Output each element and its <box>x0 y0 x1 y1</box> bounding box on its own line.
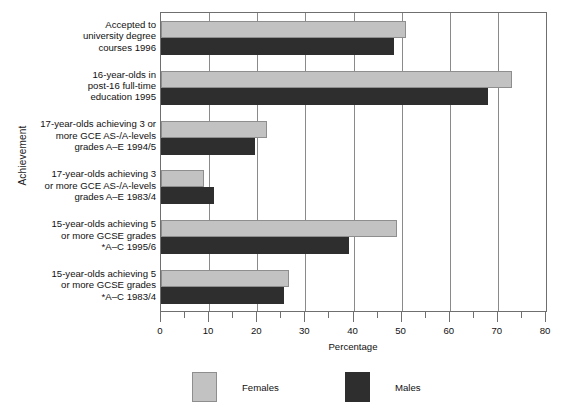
category-label-line: grades A–E 1983/4 <box>14 191 156 202</box>
gridline <box>354 13 355 312</box>
x-axis-title: Percentage <box>160 341 546 352</box>
x-tick-major <box>208 311 209 322</box>
x-tick-major <box>304 311 305 322</box>
category-label-line: or more GCSE grades <box>14 279 156 290</box>
category-label: 17-year-olds achieving 3or more GCE AS-/… <box>14 168 156 202</box>
bar-females-2 <box>161 121 267 138</box>
category-label-line: or more GCSE grades <box>14 230 156 241</box>
bar-females-1 <box>161 71 512 88</box>
legend-swatch-males <box>345 372 370 402</box>
bar-males-5 <box>161 287 284 304</box>
legend-label-females: Females <box>242 382 279 393</box>
category-label-line: grades A–E 1994/5 <box>14 141 156 152</box>
x-tick-major <box>545 311 546 322</box>
x-tick-minor <box>232 311 233 318</box>
gridline <box>498 13 499 312</box>
category-label-line: *A–C 1995/6 <box>14 241 156 252</box>
x-tick-minor <box>328 311 329 318</box>
category-label: 17-year-olds achieving 3 ormore GCE AS-/… <box>14 118 156 152</box>
category-label: 16-year-olds inpost-16 full-timeeducatio… <box>14 69 156 103</box>
bar-chart: Achievement Accepted touniversity degree… <box>0 0 570 417</box>
bar-females-3 <box>161 170 204 187</box>
bar-females-5 <box>161 270 289 287</box>
x-tick-label: 60 <box>434 325 464 336</box>
x-tick-minor <box>425 311 426 318</box>
gridline <box>305 13 306 312</box>
category-label-line: 17-year-olds achieving 3 or <box>14 118 156 129</box>
category-label-line: education 1995 <box>14 91 156 102</box>
category-label-line: *A–C 1983/4 <box>14 291 156 302</box>
x-axis: 01020304050607080 <box>160 311 546 312</box>
x-tick-major <box>497 311 498 322</box>
category-label-line: post-16 full-time <box>14 80 156 91</box>
category-label: Accepted touniversity degreecourses 1996 <box>14 19 156 53</box>
bar-males-4 <box>161 237 349 254</box>
x-tick-minor <box>184 311 185 318</box>
bar-males-1 <box>161 88 488 105</box>
x-tick-minor <box>280 311 281 318</box>
category-label-line: more GCE AS-/A-levels <box>14 130 156 141</box>
x-tick-label: 10 <box>193 325 223 336</box>
legend-label-males: Males <box>395 382 421 393</box>
gridline <box>209 13 210 312</box>
gridline <box>402 13 403 312</box>
x-tick-label: 20 <box>241 325 271 336</box>
plot-area <box>160 12 547 312</box>
category-label-column: Accepted touniversity degreecourses 1996… <box>14 12 156 311</box>
gridline <box>257 13 258 312</box>
category-label-line: university degree <box>14 30 156 41</box>
category-label-line: 17-year-olds achieving 3 <box>14 168 156 179</box>
x-tick-major <box>160 311 161 322</box>
x-tick-major <box>401 311 402 322</box>
category-label: 15-year-olds achieving 5or more GCSE gra… <box>14 218 156 252</box>
x-tick-label: 50 <box>386 325 416 336</box>
category-label-line: Accepted to <box>14 19 156 30</box>
legend-swatch-females <box>192 372 217 402</box>
category-label-line: courses 1996 <box>14 42 156 53</box>
category-label-line: or more GCE AS-/A-levels <box>14 180 156 191</box>
x-tick-label: 30 <box>289 325 319 336</box>
category-label: 15-year-olds achieving 5or more GCSE gra… <box>14 268 156 302</box>
x-tick-minor <box>521 311 522 318</box>
bar-females-0 <box>161 21 406 38</box>
category-label-line: 15-year-olds achieving 5 <box>14 218 156 229</box>
bar-males-2 <box>161 138 255 155</box>
x-tick-label: 40 <box>338 325 368 336</box>
x-tick-major <box>256 311 257 322</box>
legend-item-males: Males <box>345 372 421 402</box>
x-tick-label: 70 <box>482 325 512 336</box>
x-tick-label: 0 <box>145 325 175 336</box>
legend-item-females: Females <box>192 372 279 402</box>
category-label-line: 15-year-olds achieving 5 <box>14 268 156 279</box>
bar-females-4 <box>161 220 397 237</box>
x-tick-major <box>353 311 354 322</box>
category-label-line: 16-year-olds in <box>14 69 156 80</box>
x-tick-label: 80 <box>530 325 560 336</box>
x-tick-minor <box>473 311 474 318</box>
gridline <box>450 13 451 312</box>
bar-males-3 <box>161 187 214 204</box>
x-tick-major <box>449 311 450 322</box>
bar-males-0 <box>161 38 394 55</box>
x-tick-minor <box>377 311 378 318</box>
